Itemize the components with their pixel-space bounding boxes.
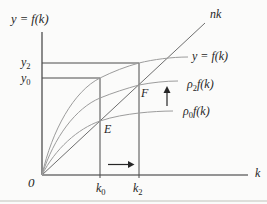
nk-ray-line [42,23,205,175]
y-axis-title: y = f(k) [11,13,49,25]
y2-tick-label: y2 [21,56,31,72]
point-f-label: F [141,87,148,99]
x-axis-label: k [255,167,260,179]
scan-artifact-line [0,200,267,202]
nk-ray-label: nk [210,8,221,20]
curve-bot-label: ρ0f(k) [183,105,210,121]
k0-tick-label: k0 [96,182,106,198]
origin-label: 0 [28,177,35,189]
curve-top-label: y = f(k) [192,50,228,62]
up-arrow-icon [164,86,171,93]
right-arrow-icon [128,161,135,168]
curve-mid-label: ρ2f(k) [187,78,214,94]
curve-y-fk [42,57,188,175]
diagram-canvas [0,0,267,204]
point-e-label: E [104,123,111,135]
k2-tick-label: k2 [133,182,143,198]
solow-growth-diagram: y = f(k) nk y = f(k) ρ2f(k) ρ0f(k) y2 y0… [0,0,267,204]
y0-tick-label: y0 [21,72,31,88]
